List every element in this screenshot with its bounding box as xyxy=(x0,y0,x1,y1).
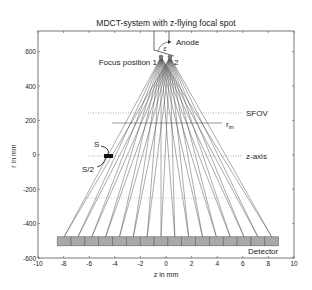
y-axis-label: r in mm xyxy=(10,144,17,168)
detector-cell xyxy=(182,237,196,246)
x-tick-label: -4 xyxy=(112,260,118,267)
detector-cell xyxy=(154,237,168,246)
focus-spot-2 xyxy=(168,55,173,60)
y-tick-label: -600 xyxy=(23,255,36,262)
y-tick-label: -200 xyxy=(23,186,36,193)
anode-label: Anode xyxy=(176,38,200,47)
s-label: S xyxy=(94,140,99,149)
detector-cell xyxy=(85,237,99,246)
x-axis-label: z in mm xyxy=(154,271,179,278)
rim-label: rim xyxy=(226,120,234,130)
detector-cell xyxy=(71,237,85,246)
y-tick-label: -400 xyxy=(23,220,36,227)
detector-cell xyxy=(265,237,279,246)
sfov-label: SFOV xyxy=(246,109,268,118)
x-axis-ticks: -10-8-6-4-20246810 xyxy=(33,31,298,267)
diagram-figure: MDCT-system with z-flying focal spot -10… xyxy=(0,0,312,290)
x-tick-label: 0 xyxy=(164,260,168,267)
x-tick-label: 6 xyxy=(241,260,245,267)
slice-thickness-marker xyxy=(97,146,113,167)
detector-label: Detector xyxy=(248,247,279,256)
detector-cell xyxy=(196,237,210,246)
detector-cell xyxy=(168,237,182,246)
detector-cell xyxy=(223,237,237,246)
chart-title: MDCT-system with z-flying focal spot xyxy=(96,18,236,28)
x-tick-label: 8 xyxy=(267,260,271,267)
y-tick-label: 400 xyxy=(25,83,36,90)
s-half-label: S/2 xyxy=(82,165,95,174)
detector-cell xyxy=(113,237,127,246)
detector-cell xyxy=(209,237,223,246)
detector-cell xyxy=(237,237,251,246)
x-tick-label: 4 xyxy=(215,260,219,267)
zaxis-label: z-axis xyxy=(246,152,267,161)
focus-spot-1 xyxy=(159,55,164,60)
x-tick-label: 2 xyxy=(190,260,194,267)
x-tick-label: -6 xyxy=(86,260,92,267)
focus-position-1-label: Focus position 1 xyxy=(99,58,158,67)
detector-cell xyxy=(99,237,113,246)
x-tick-label: -8 xyxy=(61,260,67,267)
anode-shape xyxy=(154,31,174,56)
focus-position-2-label: 2 xyxy=(174,58,179,67)
y-tick-label: 0 xyxy=(32,151,36,158)
x-tick-label: 10 xyxy=(290,260,298,267)
detector-cell xyxy=(126,237,140,246)
x-tick-label: -2 xyxy=(138,260,144,267)
detector-cell xyxy=(57,237,71,246)
detector-cell xyxy=(140,237,154,246)
detector-cell xyxy=(251,237,265,246)
y-tick-label: 200 xyxy=(25,117,36,124)
epsilon-label: ε xyxy=(163,45,167,52)
y-tick-label: 600 xyxy=(25,48,36,55)
detector-array xyxy=(57,237,278,246)
